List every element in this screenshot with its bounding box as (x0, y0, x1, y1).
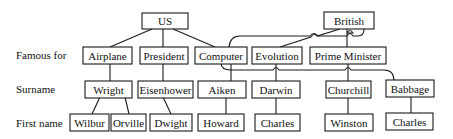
edge-british-evolution (280, 29, 340, 47)
node-wright: Wright (85, 81, 132, 98)
svg-text:Computer: Computer (199, 50, 243, 62)
svg-text:Darwin: Darwin (260, 84, 293, 96)
node-dwight: Dwight (150, 114, 192, 131)
svg-text:Wright: Wright (93, 84, 124, 96)
nationality-hierarchy-diagram: Famous for Surname First name US British… (0, 0, 453, 139)
row-label-first-name: First name (16, 117, 63, 129)
edge-british-computer (229, 29, 364, 47)
edge-wright-wilbur (92, 97, 100, 114)
edges (92, 29, 411, 114)
svg-text:British: British (334, 15, 364, 27)
edge-british-prime-minister (347, 29, 353, 47)
node-charles-babbage: Charles (386, 113, 433, 130)
svg-text:Babbage: Babbage (391, 83, 430, 95)
node-british: British (324, 12, 374, 29)
svg-text:Charles: Charles (261, 117, 295, 129)
svg-text:Aiken: Aiken (209, 84, 236, 96)
node-us: US (142, 13, 188, 29)
svg-text:Evolution: Evolution (255, 50, 299, 62)
edge-computer-babbage (221, 63, 394, 81)
node-computer: Computer (195, 47, 247, 64)
svg-text:Orville: Orville (113, 117, 144, 129)
row-label-famous-for: Famous for (16, 49, 67, 61)
svg-text:Airplane: Airplane (88, 50, 127, 62)
edge-us-computer (173, 29, 215, 47)
node-prime-minister: Prime Minister (310, 47, 386, 64)
svg-text:Dwight: Dwight (155, 117, 188, 129)
svg-text:Churchill: Churchill (328, 84, 370, 96)
node-darwin: Darwin (252, 81, 300, 98)
node-evolution: Evolution (252, 47, 302, 64)
svg-text:Charles: Charles (393, 116, 427, 128)
svg-text:Wilbur: Wilbur (74, 117, 105, 129)
svg-text:US: US (158, 15, 172, 27)
edge-us-airplane (110, 29, 152, 47)
row-label-surname: Surname (16, 83, 55, 95)
edge-eisenhower-dwight (163, 97, 171, 114)
node-eisenhower: Eisenhower (138, 81, 193, 98)
node-aiken: Aiken (198, 81, 246, 98)
node-orville: Orville (111, 114, 146, 131)
svg-text:President: President (144, 50, 185, 62)
svg-text:Howard: Howard (203, 117, 239, 129)
node-airplane: Airplane (83, 47, 132, 64)
node-babbage: Babbage (386, 80, 434, 97)
svg-text:Prime Minister: Prime Minister (315, 50, 382, 62)
svg-text:Winston: Winston (331, 117, 368, 129)
node-howard: Howard (198, 114, 244, 131)
svg-text:Eisenhower: Eisenhower (140, 84, 192, 96)
node-winston: Winston (325, 114, 373, 131)
node-wilbur: Wilbur (70, 114, 109, 131)
edge-wright-orville (125, 97, 129, 114)
node-charles-darwin: Charles (255, 114, 300, 131)
node-churchill: Churchill (326, 81, 371, 98)
node-president: President (140, 47, 188, 64)
